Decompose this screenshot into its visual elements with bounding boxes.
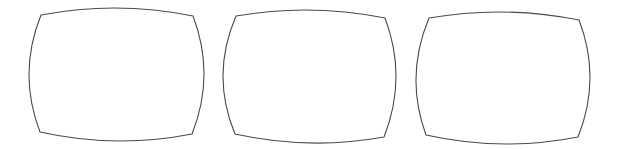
screen-outline-3 [416,12,590,144]
screen-outline-2 [223,10,396,143]
figure-canvas [0,0,621,149]
screen-outline-1 [29,8,204,141]
